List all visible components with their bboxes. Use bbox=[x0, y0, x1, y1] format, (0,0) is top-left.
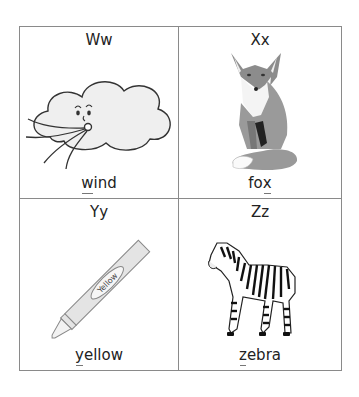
word-prefix: fo bbox=[248, 174, 262, 192]
word-target-letter: z bbox=[239, 346, 247, 364]
word-target-letter: y bbox=[75, 346, 84, 364]
word-suffix: ind bbox=[94, 174, 117, 192]
card-letters: Zz bbox=[179, 203, 341, 221]
card-z: Zz zebra bbox=[179, 199, 341, 370]
fox-icon bbox=[227, 51, 299, 173]
card-word: fox bbox=[179, 174, 341, 192]
word-suffix: ebra bbox=[247, 346, 281, 364]
word-target-letter: w bbox=[81, 174, 93, 192]
card-letters: Xx bbox=[179, 31, 341, 49]
card-x: Xx fox bbox=[179, 27, 341, 198]
card-letters: Ww bbox=[20, 31, 178, 49]
card-word: yellow bbox=[20, 346, 178, 364]
crayon-icon: Yellow bbox=[40, 225, 166, 349]
card-word: zebra bbox=[179, 346, 341, 364]
zebra-icon bbox=[207, 237, 299, 341]
card-y: Yy Yellow yellow bbox=[20, 199, 178, 370]
card-word: wind bbox=[20, 174, 178, 192]
wind-cloud-icon bbox=[20, 53, 178, 173]
card-letters: Yy bbox=[20, 203, 178, 221]
word-target-letter: x bbox=[263, 174, 272, 192]
word-suffix: ellow bbox=[84, 346, 123, 364]
alphabet-card-grid: Ww wind Xx bbox=[19, 26, 342, 371]
card-w: Ww wind bbox=[20, 27, 178, 198]
